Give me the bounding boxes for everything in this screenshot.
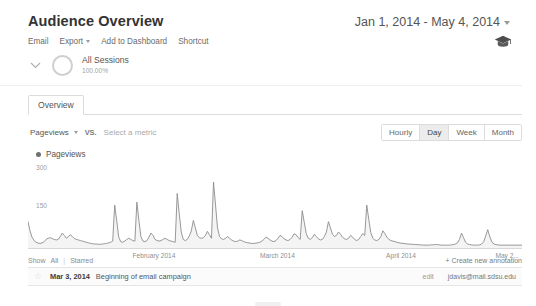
metric-selector-left: Pageviews VS. Select a metric <box>30 128 157 137</box>
pageviews-line-svg <box>28 162 522 248</box>
legend-dot-icon <box>36 152 41 157</box>
shortcut-label: Shortcut <box>178 37 209 46</box>
segment-all-sessions[interactable]: All Sessions 100.00% <box>82 55 129 75</box>
segment-name: All Sessions <box>82 55 129 66</box>
donut-chart-icon <box>52 55 73 76</box>
email-button[interactable]: Email <box>28 37 48 46</box>
annotation-date: Mar 3, 2014 <box>50 272 90 281</box>
panel-resize-handle[interactable] <box>255 302 281 306</box>
primary-metric-label: Pageviews <box>30 128 69 137</box>
segment-percent: 100.00% <box>82 67 129 75</box>
granularity-month[interactable]: Month <box>485 125 521 140</box>
page-header: Audience Overview Jan 1, 2014 - May 4, 2… <box>0 0 536 30</box>
annotation-edit-link[interactable]: edit <box>423 273 434 280</box>
add-to-dashboard-button[interactable]: Add to Dashboard <box>101 37 167 46</box>
x-axis-tick-march: March 2014 <box>260 252 295 259</box>
granularity-day[interactable]: Day <box>420 125 449 140</box>
report-tabs: Overview <box>0 86 536 114</box>
add-to-dashboard-label: Add to Dashboard <box>101 37 167 46</box>
annotation-author: jdavis@mail.sdsu.edu <box>448 273 516 280</box>
page-title: Audience Overview <box>28 14 163 30</box>
star-outline-icon[interactable]: ☆ <box>32 272 44 281</box>
annotation-row[interactable]: ☆ Mar 3, 2014 Beginning of email campaig… <box>28 267 522 286</box>
vs-label: VS. <box>85 128 97 137</box>
x-axis-tick-february: February 2014 <box>133 252 176 259</box>
tab-overview[interactable]: Overview <box>28 95 84 115</box>
export-button[interactable]: Export <box>59 37 90 46</box>
granularity-week[interactable]: Week <box>449 125 484 140</box>
chevron-down-icon <box>74 131 78 134</box>
secondary-metric-selector[interactable]: Select a metric <box>104 128 157 137</box>
export-label: Export <box>59 37 83 46</box>
metric-selector-row: Pageviews VS. Select a metric Hourly Day… <box>0 115 536 141</box>
legend-label-pageviews: Pageviews <box>46 150 86 159</box>
segment-expand-toggle[interactable] <box>30 62 52 69</box>
chart-plot-area[interactable]: 300 150 <box>28 162 522 248</box>
chart-x-axis: February 2014 March 2014 April 2014 May … <box>28 248 522 262</box>
shortcut-button[interactable]: Shortcut <box>178 37 209 46</box>
chart-legend: Pageviews <box>28 150 522 159</box>
date-range-picker[interactable]: Jan 1, 2014 - May 4, 2014 <box>355 14 518 29</box>
analytics-audience-overview-screen: Audience Overview Jan 1, 2014 - May 4, 2… <box>0 0 536 306</box>
date-range-label: Jan 1, 2014 - May 4, 2014 <box>355 15 500 29</box>
pageviews-chart: Pageviews 300 150 February 2014 March 20… <box>28 150 522 254</box>
email-label: Email <box>28 37 48 46</box>
report-toolbar: Email Export Add to Dashboard Shortcut <box>0 30 536 46</box>
annotation-text: Beginning of email campaign <box>96 272 417 281</box>
graduation-cap-icon[interactable] <box>494 34 512 48</box>
x-axis-tick-april: April 2014 <box>386 252 416 259</box>
chevron-down-icon <box>86 40 90 43</box>
granularity-button-group: Hourly Day Week Month <box>381 124 522 141</box>
granularity-hourly[interactable]: Hourly <box>382 125 420 140</box>
x-axis-tick-may: May 2... <box>495 252 518 259</box>
segment-bar: All Sessions 100.00% <box>0 46 522 86</box>
primary-metric-dropdown[interactable]: Pageviews <box>30 128 78 137</box>
chevron-down-icon <box>504 21 510 25</box>
